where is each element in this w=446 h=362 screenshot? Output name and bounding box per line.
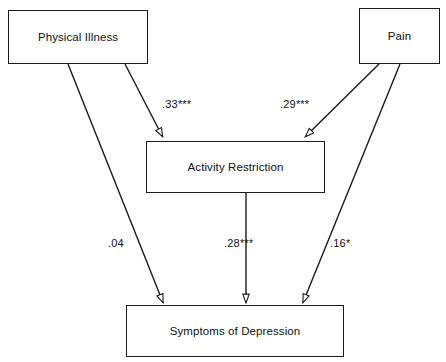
node-pain: Pain (359, 8, 440, 64)
path-diagram: Physical Illness Pain Activity Restricti… (0, 0, 446, 362)
node-physical-illness-label: Physical Illness (38, 31, 118, 44)
edge-physical-illness-to-activity-restriction (125, 64, 163, 137)
node-symptoms-of-depression-label: Symptoms of Depression (170, 325, 301, 338)
node-symptoms-of-depression: Symptoms of Depression (126, 305, 344, 357)
edge-label-physical-illness-to-symptoms-depression: .04 (108, 237, 124, 249)
edge-label-physical-illness-to-activity-restriction: .33*** (162, 98, 191, 110)
edge-label-pain-to-activity-restriction: .29*** (280, 98, 309, 110)
edge-label-activity-restriction-to-symptoms-depression: .28*** (224, 237, 253, 249)
edge-pain-to-activity-restriction (306, 64, 380, 137)
edge-label-pain-to-symptoms-depression: .16* (330, 237, 350, 249)
node-activity-restriction: Activity Restriction (146, 141, 325, 193)
node-physical-illness: Physical Illness (8, 10, 148, 64)
node-activity-restriction-label: Activity Restriction (188, 161, 284, 174)
node-pain-label: Pain (388, 30, 411, 43)
